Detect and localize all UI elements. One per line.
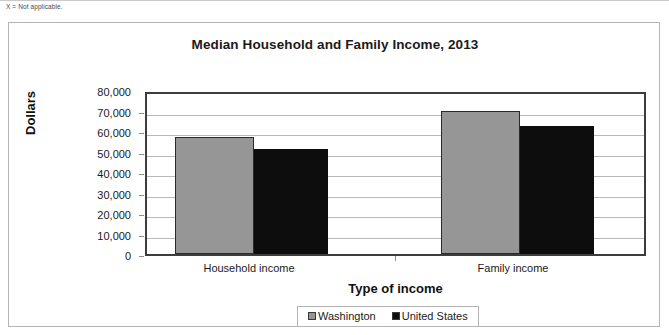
y-tick-label: 40,000 bbox=[97, 168, 131, 180]
y-tick-mark bbox=[139, 154, 144, 155]
legend-item-washington[interactable]: Washington bbox=[308, 310, 376, 322]
y-tick-label: 20,000 bbox=[97, 209, 131, 221]
y-tick-label: 80,000 bbox=[97, 86, 131, 98]
legend-swatch-icon bbox=[392, 312, 400, 320]
chart-title: Median Household and Family Income, 2013 bbox=[9, 37, 661, 52]
y-tick-mark bbox=[139, 215, 144, 216]
x-tick-mark bbox=[395, 256, 396, 261]
y-tick-label: 10,000 bbox=[97, 230, 131, 242]
y-tick-mark bbox=[139, 195, 144, 196]
y-tick-label: 0 bbox=[125, 250, 131, 262]
y-tick-label: 60,000 bbox=[97, 127, 131, 139]
x-category-label-household: Household income bbox=[203, 262, 294, 274]
bar-united-states-household[interactable] bbox=[254, 149, 328, 254]
legend-swatch-icon bbox=[308, 312, 316, 320]
y-tick-label: 70,000 bbox=[97, 107, 131, 119]
y-tick-mark bbox=[139, 174, 144, 175]
y-tick-label: 30,000 bbox=[97, 189, 131, 201]
plot-area bbox=[145, 92, 646, 256]
footnote-text: X = Not applicable. bbox=[6, 3, 63, 10]
bar-united-states-family[interactable] bbox=[520, 126, 594, 254]
legend-item-united-states[interactable]: United States bbox=[392, 310, 468, 322]
chart-legend: Washington United States bbox=[297, 306, 479, 327]
chart-card: Median Household and Family Income, 2013… bbox=[8, 22, 660, 327]
y-tick-mark bbox=[139, 133, 144, 134]
x-axis-title: Type of income bbox=[145, 281, 646, 296]
y-tick-label: 50,000 bbox=[97, 148, 131, 160]
bar-washington-family[interactable] bbox=[441, 111, 520, 254]
x-category-label-family: Family income bbox=[478, 262, 549, 274]
y-axis-labels: 80,000 70,000 60,000 50,000 40,000 30,00… bbox=[9, 83, 139, 265]
y-tick-mark bbox=[139, 236, 144, 237]
bar-washington-household[interactable] bbox=[175, 137, 254, 254]
legend-label: United States bbox=[402, 310, 468, 322]
gridline bbox=[147, 115, 644, 116]
y-tick-mark bbox=[139, 113, 144, 114]
legend-label: Washington bbox=[318, 310, 376, 322]
y-tick-mark bbox=[139, 256, 144, 257]
top-divider bbox=[0, 0, 669, 1]
